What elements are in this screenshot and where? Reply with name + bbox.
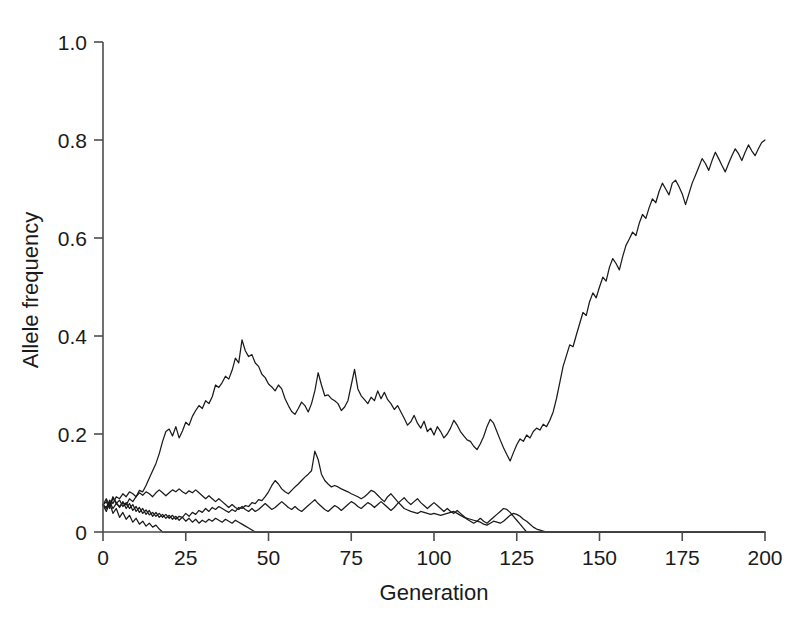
series-line [103,503,765,532]
x-axis-title: Generation [380,580,489,605]
x-tick-label: 175 [665,546,700,569]
x-tick-label: 50 [257,546,280,569]
x-tick-label: 100 [416,546,451,569]
y-tick-label: 0.6 [58,227,87,250]
x-tick-label: 150 [582,546,617,569]
series-line [103,489,732,532]
series-group [103,140,765,532]
x-tick-label: 200 [747,546,782,569]
line-chart-canvas: 025507510012515017520000.20.40.60.81.0 G… [0,0,799,625]
y-tick-label: 0.8 [58,129,87,152]
y-axis-title: Allele frequency [18,212,43,369]
y-tick-label: 0.2 [58,423,87,446]
allele-frequency-figure: 025507510012515017520000.20.40.60.81.0 G… [0,0,799,625]
tick-labels-group: 025507510012515017520000.20.40.60.81.0 [58,31,783,569]
x-tick-label: 75 [340,546,363,569]
x-tick-label: 125 [499,546,534,569]
x-tick-label: 25 [174,546,197,569]
y-tick-label: 0.4 [58,325,88,348]
series-line [103,140,765,508]
axes-group [94,42,765,541]
y-tick-label: 1.0 [58,31,87,54]
x-tick-label: 0 [97,546,109,569]
y-tick-label: 0 [75,521,87,544]
